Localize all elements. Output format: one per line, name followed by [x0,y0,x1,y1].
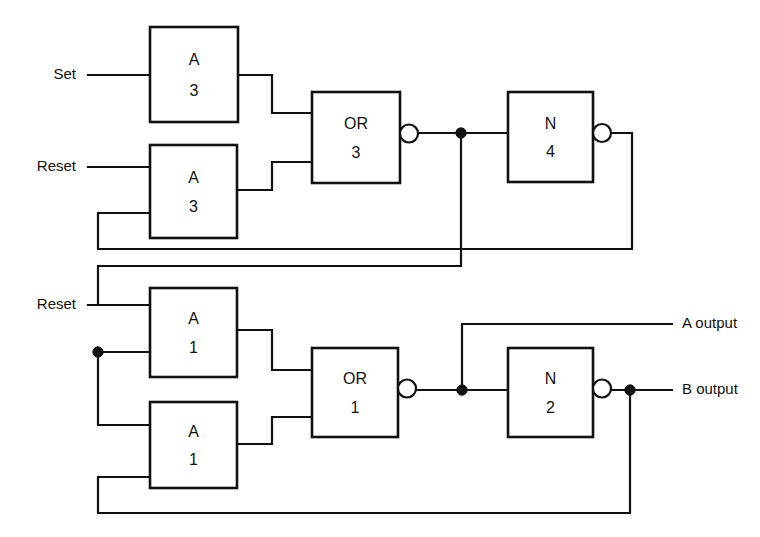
gate-a3_top[interactable]: A3 [150,27,238,122]
wire-a3bot-out-to-or3 [237,162,312,190]
input-label-reset_bottom: Reset [37,295,77,312]
gate-type-label: A [188,423,199,440]
wire-reset-branch-to-a1bot [98,352,150,425]
gate-body [508,348,593,437]
gate-a3_bot[interactable]: A3 [150,145,237,238]
junction-dot-reset-branch [93,347,103,357]
logic-diagram: A3A3OR3N4A1A1OR1N2 SetResetResetA output… [0,0,760,537]
output-label-a_output: A output [682,314,738,331]
gate-number-label: 4 [546,143,555,160]
gate-or1[interactable]: OR1 [312,348,416,437]
wire-a1top-out-to-or1 [237,330,312,370]
gate-body [508,92,593,182]
junction-dot-or3-out-tap [456,128,466,138]
wire-a3top-out-to-or3 [238,75,312,113]
gate-type-label: A [188,310,199,327]
input-label-reset_top: Reset [37,157,77,174]
gate-number-label: 1 [189,451,198,468]
gate-number-label: 2 [546,399,555,416]
gate-a1_top[interactable]: A1 [150,288,237,377]
inverting-bubble-icon [400,125,418,143]
gate-body [312,92,400,183]
gate-or3[interactable]: OR3 [312,92,418,183]
gate-body [150,27,238,122]
junction-dot-or1-out-tap [457,385,467,395]
gate-a1_bot[interactable]: A1 [150,402,237,488]
wire-a1bot-out-to-or1 [237,417,312,444]
gate-number-label: 3 [189,198,198,215]
circuit-canvas: A3A3OR3N4A1A1OR1N2 SetResetResetA output… [0,0,760,537]
input-label-set: Set [53,65,76,82]
gate-body [150,288,237,377]
gate-n2[interactable]: N2 [508,348,611,437]
gate-body [312,348,398,437]
gate-type-label: OR [344,115,368,132]
gate-number-label: 1 [189,339,198,356]
gate-type-label: N [545,370,557,387]
gate-type-label: N [545,115,557,132]
gate-body [150,402,237,488]
gate-number-label: 1 [351,399,360,416]
gate-n4[interactable]: N4 [508,92,611,182]
gate-number-label: 3 [352,144,361,161]
gate-type-label: A [188,169,199,186]
gate-type-label: OR [343,370,367,387]
inverting-bubble-icon [593,124,611,142]
gate-number-label: 3 [190,82,199,99]
gate-type-label: A [189,51,200,68]
gate-body [150,145,237,238]
junction-dot-n2-out-tap [625,385,635,395]
gates-layer: A3A3OR3N4A1A1OR1N2 [150,27,611,488]
inverting-bubble-icon [593,380,611,398]
output-label-b_output: B output [682,380,739,397]
inverting-bubble-icon [398,380,416,398]
